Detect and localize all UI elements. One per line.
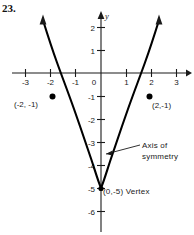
vertex-label: (0,-5) Vertex — [103, 187, 150, 196]
y-tick-label--3: -3 — [88, 139, 96, 148]
axis-of-symmetry-arrow-icon — [106, 151, 113, 156]
y-tick-label-1: 1 — [91, 47, 96, 56]
parabola-right-arrow-icon — [156, 15, 163, 25]
x-tick-label-1: 1 — [124, 78, 129, 87]
x-tick-label-0: 0 — [92, 78, 97, 87]
point-marker-right — [147, 94, 153, 100]
right-point-label: (2,-1) — [152, 101, 171, 110]
x-tick-label-2: 2 — [149, 78, 154, 87]
x-axis-arrow-icon — [186, 70, 192, 77]
parabola-figure: 23. y -3 -2 -1 0 1 2 — [0, 0, 194, 235]
y-axis-arrow-icon — [98, 11, 105, 19]
coordinate-plane: y -3 -2 -1 0 1 2 3 — [0, 0, 194, 235]
y-tick-label--1: -1 — [88, 93, 96, 102]
y-tick-label-2: 2 — [91, 24, 96, 33]
axis-of-symmetry-label-line2: symmetry — [142, 152, 178, 161]
parabola-left-arrow-icon — [40, 15, 47, 25]
y-tick-labels: 2 1 -1 -2 -3 -4 -5 -6 — [88, 24, 96, 217]
axis-of-symmetry-label-line1: Axis of — [142, 141, 168, 150]
x-tick-label--2: -2 — [47, 78, 55, 87]
y-tick-label--5: -5 — [88, 185, 96, 194]
point-marker-left — [50, 94, 56, 100]
x-tick-label-3: 3 — [174, 78, 179, 87]
left-point-label: (-2, -1) — [14, 100, 38, 109]
x-tick-label--3: -3 — [22, 78, 30, 87]
y-axis-name-label: y — [104, 11, 109, 21]
x-axis — [12, 70, 192, 77]
x-tick-label--1: -1 — [72, 78, 80, 87]
y-tick-label--6: -6 — [88, 208, 96, 217]
y-tick-label--2: -2 — [88, 116, 96, 125]
y-axis: y — [98, 11, 109, 232]
